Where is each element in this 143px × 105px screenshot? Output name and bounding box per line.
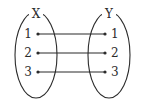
diagram-canvas: X Y 1 2 3 1 2 3 [0, 0, 143, 105]
set-y-label: Y [104, 7, 114, 21]
set-y-ellipse [88, 12, 130, 98]
element-label-x2: 2 [24, 46, 32, 60]
node-dot-y1 [103, 32, 106, 35]
set-mapping-diagram: X Y 1 2 3 1 2 3 [0, 0, 143, 105]
set-x-element-labels: 1 2 3 [24, 27, 32, 79]
node-dot-x1 [36, 32, 39, 35]
edge-group [38, 34, 105, 72]
element-label-x1: 1 [24, 27, 32, 41]
set-y-element-labels: 1 2 3 [111, 27, 119, 79]
set-x-label: X [32, 7, 41, 21]
node-dot-x2 [36, 51, 39, 54]
set-y-dots [103, 32, 106, 73]
element-label-x3: 3 [24, 65, 32, 79]
node-dot-y3 [103, 70, 106, 73]
set-x-dots [36, 32, 39, 73]
element-label-y1: 1 [111, 27, 119, 41]
element-label-y2: 2 [111, 46, 119, 60]
element-label-y3: 3 [111, 65, 119, 79]
node-dot-y2 [103, 51, 106, 54]
node-dot-x3 [36, 70, 39, 73]
set-x-ellipse [15, 12, 57, 98]
